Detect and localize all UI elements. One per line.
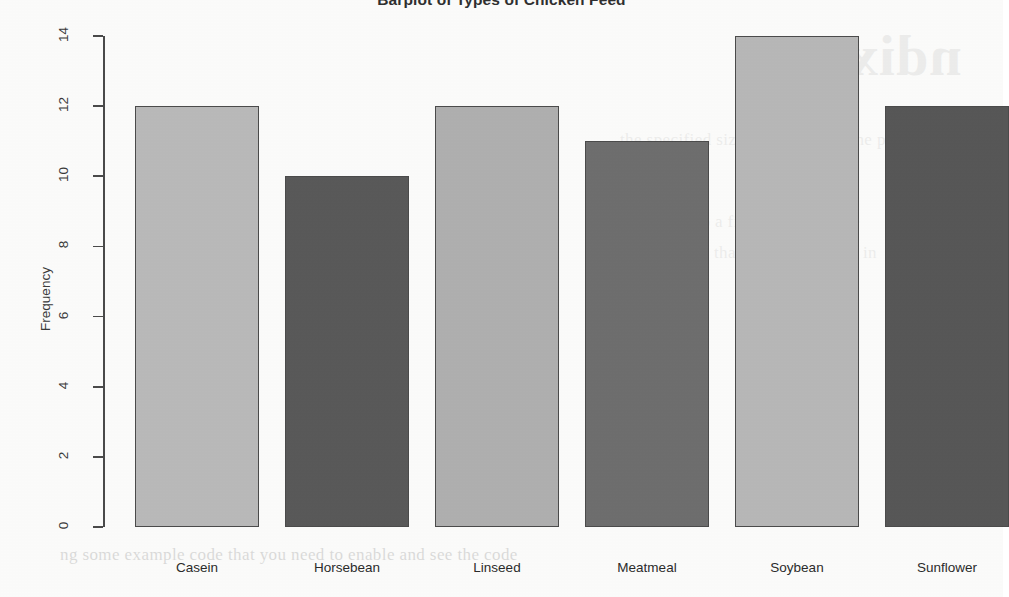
- y-axis-tick-label: 0: [56, 511, 71, 541]
- y-axis-tick-label: 12: [56, 90, 71, 120]
- x-axis-label-linseed: Linseed: [435, 560, 559, 575]
- bar-casein: [135, 106, 259, 527]
- chart-title: Barplot of Types of Chicken Feed: [0, 0, 1003, 9]
- y-axis-tick-label: 4: [56, 370, 71, 400]
- x-axis-label-casein: Casein: [135, 560, 259, 575]
- y-axis-tick: [93, 246, 103, 248]
- x-axis-label-soybean: Soybean: [735, 560, 859, 575]
- y-axis-tick: [93, 105, 103, 107]
- bar-linseed: [435, 106, 559, 527]
- y-axis-tick-label: 8: [56, 230, 71, 260]
- bar-sunflower: [885, 106, 1009, 527]
- y-axis-tick-label: 6: [56, 300, 71, 330]
- y-axis-tick: [93, 316, 103, 318]
- y-axis-tick-label: 2: [56, 440, 71, 470]
- bar-horsebean: [285, 176, 409, 527]
- bar-soybean: [735, 36, 859, 527]
- x-axis-label-meatmeal: Meatmeal: [585, 560, 709, 575]
- x-axis-label-horsebean: Horsebean: [285, 560, 409, 575]
- y-axis-tick-label: 10: [56, 160, 71, 190]
- y-axis-tick: [93, 526, 103, 528]
- plot-area: [104, 20, 994, 528]
- y-axis-tick: [93, 35, 103, 37]
- y-axis-tick: [93, 386, 103, 388]
- y-axis-tick-label: 14: [56, 20, 71, 50]
- y-axis-label: Frequency: [38, 267, 53, 331]
- y-axis-tick: [93, 456, 103, 458]
- bar-meatmeal: [585, 141, 709, 527]
- x-axis-label-sunflower: Sunflower: [885, 560, 1009, 575]
- y-axis-tick: [93, 175, 103, 177]
